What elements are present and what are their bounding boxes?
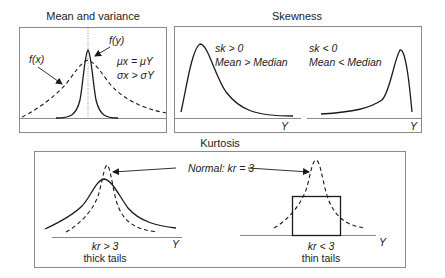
fx-label: f(x) (29, 53, 44, 65)
normal-arrow-right (248, 168, 309, 172)
mean-variance-title: Mean and variance (46, 10, 140, 22)
skewness-panel: Skewness sk > 0 Mean > Median Y sk < 0 M… (175, 10, 422, 133)
kurtosis-title: Kurtosis (200, 137, 240, 149)
kurtosis-panel: Kurtosis kr > 3 thick tails Y Normal: kr… (35, 137, 406, 268)
negative-skew-axis-label: Y (410, 120, 418, 132)
thick-tails-condition: kr > 3 (92, 240, 119, 252)
negative-skew-condition: sk < 0 (309, 42, 337, 54)
fy-arrow (95, 47, 110, 56)
normal-curve-left (66, 165, 158, 232)
positive-skew-description: Mean > Median (215, 56, 288, 68)
mean-variance-panel: Mean and variance f(x) f(y) μx = μY σx >… (20, 10, 167, 133)
thin-tails-axis-label: Y (379, 236, 387, 248)
negative-skew-description: Mean < Median (309, 56, 382, 68)
positive-skew-axis-label: Y (281, 120, 289, 132)
thick-tails-axis-label: Y (172, 238, 180, 250)
thin-tails-condition: kr < 3 (308, 240, 335, 252)
thick-tails-description: thick tails (83, 252, 126, 264)
fy-label: f(y) (109, 34, 124, 46)
sigma-relation: σx > σY (117, 69, 155, 81)
mean-relation: μx = μY (116, 55, 154, 67)
fx-arrow (38, 67, 62, 84)
thin-tails-description: thin tails (302, 252, 341, 264)
positive-skew-curve (181, 44, 293, 116)
positive-skew-condition: sk > 0 (215, 42, 243, 54)
skewness-title: Skewness (272, 10, 323, 22)
normal-label: Normal: kr = 3 (188, 162, 254, 174)
thick-tails-curve (45, 179, 176, 229)
skewness-frame (175, 27, 422, 133)
distribution-moments-diagram: Mean and variance f(x) f(y) μx = μY σx >… (0, 0, 445, 278)
normal-arrow-left (113, 168, 176, 172)
